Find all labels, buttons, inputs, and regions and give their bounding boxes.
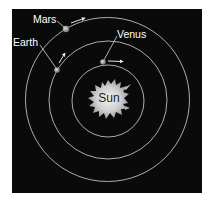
earth-body (54, 67, 60, 73)
mars-body (63, 26, 70, 33)
venus-label: Venus (117, 28, 146, 40)
solar-system-diagram: Sun Venus Earth Mars (0, 0, 212, 203)
venus-motion-arrow (108, 61, 123, 62)
earth-label: Earth (13, 36, 38, 48)
venus-body (100, 59, 106, 65)
sun-label: Sun (98, 91, 119, 105)
mars-label: Mars (33, 13, 56, 25)
